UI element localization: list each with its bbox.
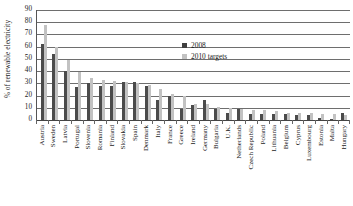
x-axis-category-label: Ireland: [189, 125, 196, 145]
bar-2010-target: [159, 89, 162, 120]
chart-legend: 2008 2010 targets: [182, 40, 278, 62]
x-axis-label-cell: Slovakia: [117, 124, 129, 204]
y-axis-tick-label: 30: [25, 80, 32, 87]
x-axis-category-label: France: [166, 125, 173, 144]
bar-2010-target: [136, 83, 139, 120]
x-axis-category-label: Austria: [38, 125, 45, 146]
bar-2010-target: [148, 85, 151, 120]
bar-group: [61, 10, 73, 120]
bar-2010-target: [67, 60, 70, 120]
bar-group: [235, 10, 247, 120]
x-axis-label-cell: Romania: [94, 124, 106, 204]
legend-item-2008: 2008: [182, 40, 278, 51]
bar-2010-target: [275, 111, 278, 120]
bar-group: [38, 10, 50, 120]
bar-2010-target: [310, 113, 313, 120]
x-axis-category-label: Slovenia: [85, 125, 92, 150]
plot-area: [36, 10, 350, 120]
bar-2010-target: [183, 96, 186, 120]
bar-2010-target: [113, 81, 116, 120]
bar-group: [258, 10, 270, 120]
x-axis-label-cell: Netherlands: [234, 124, 246, 204]
y-axis-title-label: % of renewable electricity: [4, 20, 12, 98]
bar-group: [316, 10, 328, 120]
x-axis-label-cell: Spain: [129, 124, 141, 204]
legend-item-2010-targets: 2010 targets: [182, 51, 278, 62]
x-axis-category-label: Estonia: [317, 125, 324, 146]
legend-item-label: 2010 targets: [191, 53, 227, 60]
y-axis-tick-label: 90: [25, 6, 32, 13]
x-axis-label-cell: Malta: [327, 124, 339, 204]
x-axis-label-cell: Finland: [106, 124, 118, 204]
x-axis-category-label: Bulgaria: [213, 125, 220, 149]
x-axis-category-label: Malta: [329, 125, 336, 141]
bar-group: [96, 10, 108, 120]
bars-layer: [37, 10, 350, 120]
x-axis-label-cell: Italy: [152, 124, 164, 204]
x-axis-label-cell: Latvia: [59, 124, 71, 204]
bar-2010-target: [90, 78, 93, 120]
x-axis-category-label: Latvia: [62, 125, 69, 143]
x-axis-category-label: Poland: [259, 125, 266, 144]
x-axis-label-cell: Denmark: [141, 124, 153, 204]
bar-2010-target: [102, 80, 105, 120]
bar-group: [339, 10, 351, 120]
x-axis-label-cell: Greece: [176, 124, 188, 204]
x-axis-label-cell: Cyprus: [292, 124, 304, 204]
x-axis-category-label: Denmark: [143, 125, 150, 151]
x-axis-category-label: Luxembourg: [306, 125, 313, 161]
bar-group: [269, 10, 281, 120]
bar-group: [211, 10, 223, 120]
renewable-electricity-bar-chart: % of renewable electricity 0102030405060…: [0, 0, 353, 206]
bar-2010-target: [171, 94, 174, 120]
y-axis-tick-label: 40: [25, 68, 32, 75]
x-axis-label-cell: France: [164, 124, 176, 204]
bar-group: [177, 10, 189, 120]
bar-2010-target: [206, 104, 209, 120]
x-axis-category-label: Italy: [155, 125, 162, 138]
bar-group: [327, 10, 339, 120]
y-axis-tick-labels: 0102030405060708090: [16, 10, 34, 120]
x-axis-label-cell: Belgium: [280, 124, 292, 204]
y-axis-title: % of renewable electricity: [0, 0, 16, 118]
x-axis-label-cell: Lithuania: [269, 124, 281, 204]
x-axis-category-labels: AustriaSwedenLatviaPortugalSloveniaRoman…: [36, 124, 350, 204]
x-axis-category-label: Germany: [201, 125, 208, 151]
x-axis-label-cell: Portugal: [71, 124, 83, 204]
bar-2010-target: [78, 72, 81, 120]
bar-2010-target: [125, 82, 128, 120]
y-axis-tick-label: 80: [25, 19, 32, 26]
x-axis-label-cell: Luxembourg: [303, 124, 315, 204]
y-axis-tick-label: 50: [25, 55, 32, 62]
y-axis-tick-label: 0: [28, 116, 32, 123]
x-axis-category-label: Portugal: [73, 125, 80, 149]
x-axis-label-cell: Czech Republic: [245, 124, 257, 204]
bar-2010-target: [252, 110, 255, 120]
bar-2010-target: [298, 113, 301, 120]
x-axis-category-label: Netherlands: [236, 125, 243, 159]
legend-item-label: 2008: [191, 42, 206, 49]
bar-2010-target: [194, 104, 197, 120]
x-axis-category-label: Romania: [96, 125, 103, 150]
bar-group: [107, 10, 119, 120]
x-axis-category-label: U.K.: [224, 125, 231, 139]
bar-2010-target: [217, 107, 220, 120]
x-axis-category-label: Lithuania: [271, 125, 278, 152]
x-axis-category-label: Spain: [131, 125, 138, 141]
bar-group: [119, 10, 131, 120]
bar-2010-target: [55, 47, 58, 120]
bar-group: [281, 10, 293, 120]
bar-group: [200, 10, 212, 120]
bar-2010-target: [240, 109, 243, 120]
bar-group: [304, 10, 316, 120]
x-axis-category-label: Hungary: [341, 125, 348, 150]
bar-group: [73, 10, 85, 120]
bar-group: [131, 10, 143, 120]
x-axis-label-cell: Germany: [199, 124, 211, 204]
y-axis-tick-label: 20: [25, 92, 32, 99]
x-axis-label-cell: U.K.: [222, 124, 234, 204]
x-axis-label-cell: Sweden: [48, 124, 60, 204]
bar-group: [154, 10, 166, 120]
x-axis-category-label: Cyprus: [294, 125, 301, 145]
y-axis-tick-label: 10: [25, 104, 32, 111]
